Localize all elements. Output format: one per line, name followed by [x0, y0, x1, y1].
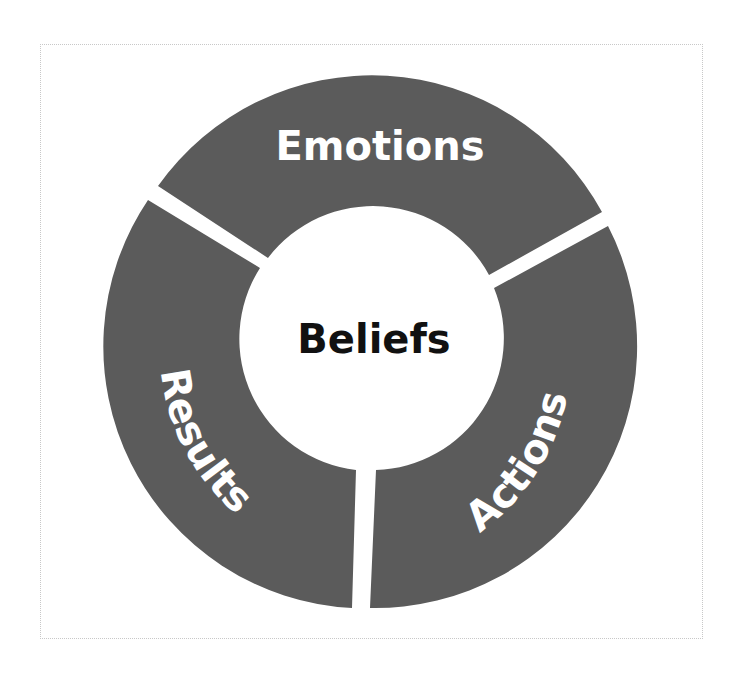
center-label-beliefs: Beliefs	[297, 316, 450, 362]
belief-cycle-diagram: Emotions Actions Results Beliefs	[0, 0, 745, 675]
segment-label-emotions: Emotions	[275, 123, 484, 169]
